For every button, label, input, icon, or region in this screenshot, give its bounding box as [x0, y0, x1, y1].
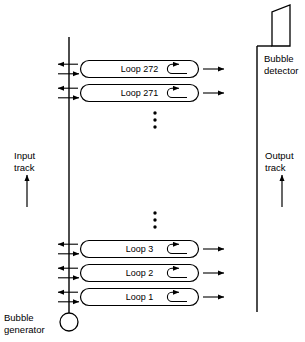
bubble-detector-label-line1: Bubble — [264, 53, 294, 65]
loop-label-1: Loop 1 — [89, 292, 190, 302]
bubble-memory-diagram: Loop 272 Loop 271 Loop 3 Loop 2 Loop 1 I… — [0, 0, 305, 342]
bubble-detector-shape — [272, 5, 290, 46]
upper-ellipsis-icon — [153, 111, 156, 128]
bubble-detector-label-line2: detector — [264, 65, 298, 77]
loop-label-3: Loop 3 — [89, 244, 190, 254]
output-track-label-line2: track — [265, 162, 286, 174]
input-track-label-line2: track — [14, 162, 35, 174]
bubble-generator-circle — [60, 313, 78, 331]
loop-label-272: Loop 272 — [89, 64, 190, 74]
loop-label-271: Loop 271 — [89, 88, 190, 98]
output-track-label-line1: Output — [265, 150, 294, 162]
loop-label-2: Loop 2 — [89, 268, 190, 278]
input-track-label-line1: Input — [14, 150, 35, 162]
lower-ellipsis-icon — [153, 211, 156, 228]
bubble-generator-label-line1: Bubble — [4, 312, 34, 324]
bubble-generator-label-line2: generator — [4, 324, 45, 336]
